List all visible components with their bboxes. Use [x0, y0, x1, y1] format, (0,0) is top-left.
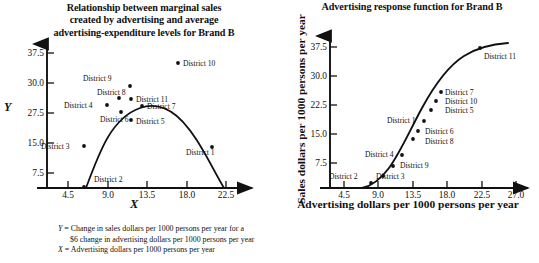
figure-page: Relationship between marginal sales crea…	[0, 0, 539, 263]
footnote-line-1-text: = Change in sales dollars per 1000 perso…	[62, 224, 244, 233]
label-district-6: District 6	[100, 115, 128, 124]
left-ytick-27-5: 27.5	[8, 108, 44, 118]
point-district-1	[422, 119, 426, 123]
label-district-10: District 10	[445, 97, 477, 106]
point-district-7	[140, 104, 144, 108]
right-y-ticks	[330, 47, 337, 163]
point-district-5	[429, 108, 433, 112]
label-district-2: District 2	[94, 175, 122, 184]
right-x-axis-title: Advertising dollars per 1000 persons per…	[282, 198, 534, 210]
label-district-8: District 8	[97, 88, 125, 97]
left-xtick-18-0: 18.0	[169, 190, 205, 200]
footnote-line-2: $6 change in advertising dollars per 100…	[58, 235, 358, 246]
label-district-11: District 11	[484, 52, 516, 61]
point-district-9	[391, 164, 395, 168]
label-district-8: District 8	[425, 137, 453, 146]
point-district-6	[119, 110, 123, 114]
left-x-ticks	[68, 181, 226, 188]
label-district-9: District 9	[83, 74, 111, 83]
label-district-9: District 9	[400, 161, 428, 170]
label-district-4: District 4	[365, 150, 393, 159]
point-district-4	[105, 103, 109, 107]
left-x-axis-title: X	[130, 197, 138, 212]
left-ytick-37-5: 37.5	[8, 48, 44, 58]
label-district-5: District 5	[445, 106, 473, 115]
point-district-9	[128, 84, 132, 88]
point-district-11	[129, 97, 133, 101]
point-district-2	[369, 181, 373, 185]
point-district-3	[82, 144, 86, 148]
label-district-3: District 3	[376, 172, 404, 181]
point-district-8	[411, 137, 415, 141]
label-district-7: District 7	[147, 102, 175, 111]
point-district-11	[478, 46, 482, 50]
footnote-line-1: Y = Change in sales dollars per 1000 per…	[58, 224, 358, 235]
left-y-axis-title: Y	[4, 100, 11, 115]
left-xtick-22-5: 22.5	[208, 190, 244, 200]
point-district-4	[400, 153, 404, 157]
point-district-6	[416, 129, 420, 133]
label-district-3: District 3	[41, 142, 69, 151]
label-district-7: District 7	[445, 88, 473, 97]
point-district-5	[129, 118, 133, 122]
left-ytick-30-0: 30.0	[8, 78, 44, 88]
left-ytick-7-5: 7.5	[8, 168, 44, 178]
point-district-10	[434, 99, 438, 103]
label-district-2: District 2	[329, 172, 357, 181]
right-y-axis-title: Sales dollars per 1000 persons per year	[295, 14, 307, 204]
right-response-curve	[362, 43, 508, 188]
label-district-4: District 4	[64, 101, 92, 110]
point-district-10	[176, 61, 180, 65]
left-xtick-9-0: 9.0	[90, 190, 126, 200]
label-district-5: District 5	[136, 117, 164, 126]
figure-footnote: Y = Change in sales dollars per 1000 per…	[58, 224, 358, 256]
footnote-line-3: X = Advertising dollars per 1000 persons…	[58, 245, 358, 256]
point-district-2	[82, 185, 86, 189]
label-district-1: District 1	[186, 148, 214, 157]
label-district-10: District 10	[183, 59, 215, 68]
left-y-ticks	[47, 53, 54, 173]
point-district-7	[439, 90, 443, 94]
label-district-1: District 1	[387, 116, 415, 125]
label-district-6: District 6	[425, 127, 453, 136]
footnote-line-3-text: = Advertising dollars per 1000 persons p…	[63, 245, 215, 254]
left-xtick-4-5: 4.5	[50, 190, 86, 200]
left-ytick-15-0: 15.0	[8, 138, 44, 148]
